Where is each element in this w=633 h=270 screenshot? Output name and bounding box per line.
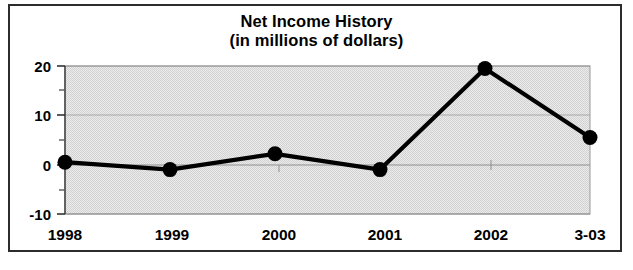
y-axis-minor-ticks [59,90,65,190]
data-point-1999 [163,162,178,177]
line-chart-plot: 20 10 0 -10 1998 1999 2000 2001 2002 3-0… [0,0,633,270]
data-point-2001 [373,162,388,177]
data-point-3-03 [583,130,598,145]
y-tick-label-minus10: -10 [29,206,51,223]
y-tick-label-20: 20 [34,58,51,75]
x-tick-label-1999: 1999 [155,226,190,243]
data-point-2002 [478,61,493,76]
x-tick-label-1998: 1998 [48,226,83,243]
x-tick-label-2002: 2002 [474,226,508,243]
data-point-1998 [58,155,73,170]
y-tick-label-0: 0 [43,157,51,174]
x-tick-label-2000: 2000 [262,226,296,243]
x-tick-label-2001: 2001 [368,226,403,243]
data-point-2000 [268,146,283,161]
y-tick-label-10: 10 [34,107,51,124]
chart-figure: Net Income History (in millions of dolla… [0,0,633,270]
x-tick-label-3-03: 3-03 [574,226,605,243]
